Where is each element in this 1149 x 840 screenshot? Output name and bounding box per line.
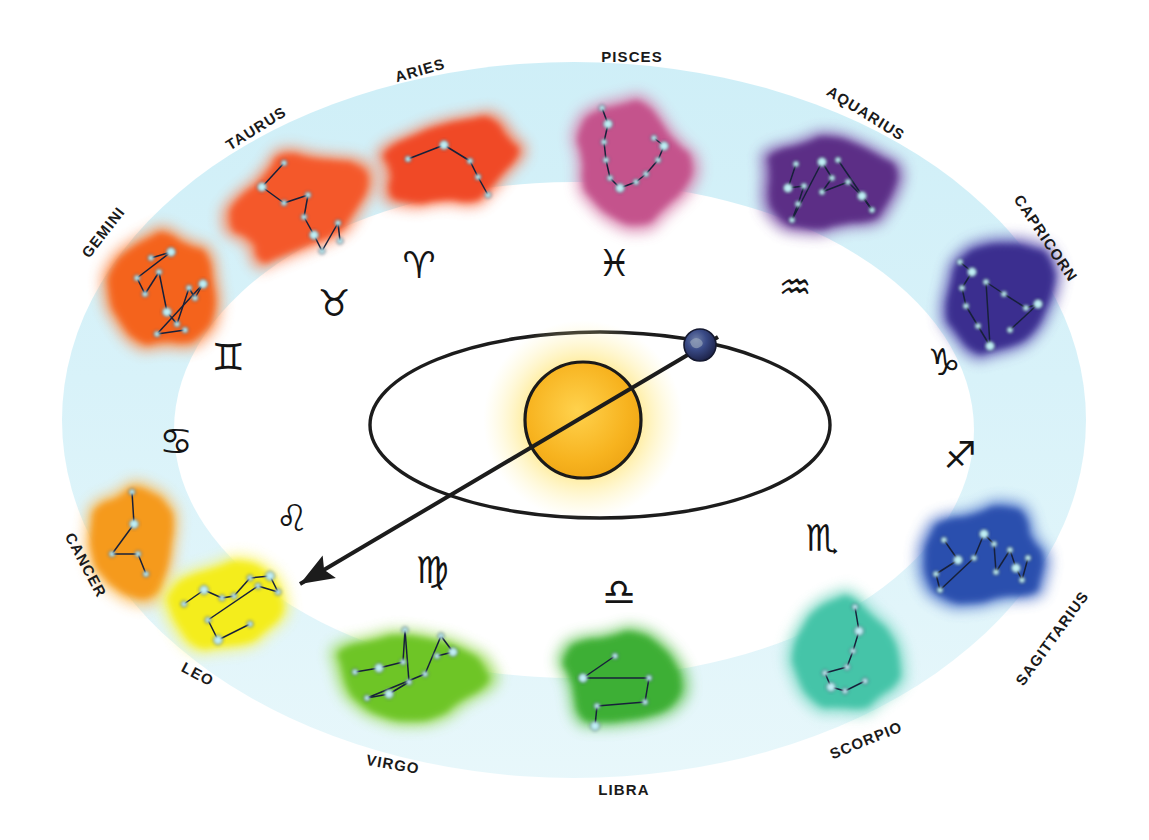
earth (684, 329, 716, 361)
star-point (400, 659, 406, 665)
star-point (991, 541, 997, 547)
star-point (213, 635, 222, 644)
star-point (819, 189, 825, 195)
star-point (434, 653, 440, 659)
star-point (1023, 305, 1029, 311)
star-point (231, 593, 237, 599)
star-point (337, 238, 343, 244)
star-point (783, 183, 792, 192)
star-point (129, 489, 135, 495)
star-point (143, 571, 149, 577)
star-point (659, 141, 668, 150)
star-point (1019, 577, 1025, 583)
star-point (578, 673, 587, 682)
star-point (993, 569, 999, 575)
star-point (154, 331, 160, 337)
star-point (406, 679, 412, 685)
star-point (789, 217, 795, 223)
star-point (651, 135, 657, 141)
star-point (985, 341, 994, 350)
star-point (869, 207, 875, 213)
star-point (182, 327, 188, 333)
star-point (603, 119, 612, 128)
sign-symbol-taurus-icon: ♉ (317, 285, 350, 322)
star-point (309, 230, 318, 239)
star-point (642, 699, 648, 705)
star-point (941, 537, 947, 543)
star-point (842, 688, 848, 694)
star-point (199, 585, 208, 594)
star-point (448, 647, 457, 656)
star-point (301, 214, 307, 220)
sign-symbol-capricorn-icon: ♑ (927, 344, 960, 381)
star-point (957, 259, 963, 265)
star-point (844, 664, 850, 670)
star-point (162, 307, 171, 316)
star-point (255, 583, 261, 589)
sun (483, 320, 683, 520)
star-point (959, 285, 965, 291)
star-point (192, 295, 198, 301)
star-point (967, 267, 976, 276)
star-point (933, 571, 939, 577)
star-point (852, 604, 858, 610)
star-point (364, 695, 370, 701)
star-point (174, 321, 180, 327)
sign-symbol-scorpio-icon: ♏ (805, 520, 838, 557)
star-point (281, 160, 287, 166)
star-point (643, 171, 649, 177)
star-point (1007, 547, 1013, 553)
sign-symbol-libra-icon: ♎ (602, 574, 635, 611)
star-point (186, 285, 192, 291)
star-point (166, 247, 175, 256)
star-point (335, 220, 341, 226)
star-point (983, 279, 989, 285)
star-point (655, 157, 661, 163)
star-point (156, 269, 162, 275)
star-point (829, 175, 835, 181)
star-point (134, 275, 140, 281)
star-point (485, 192, 491, 198)
star-point (438, 633, 444, 639)
star-point (937, 587, 943, 593)
star-point (142, 291, 148, 297)
star-point (795, 201, 801, 207)
sign-symbol-leo-icon: ♌ (275, 500, 308, 537)
star-point (826, 682, 835, 691)
sign-symbol-aquarius-icon: ♒ (778, 269, 811, 306)
star-point (793, 161, 799, 167)
star-point (319, 248, 325, 254)
star-point (607, 175, 613, 181)
star-point (603, 157, 609, 163)
star-point (181, 601, 187, 607)
star-point (1001, 291, 1007, 297)
star-point (633, 179, 639, 185)
star-point (198, 279, 207, 288)
star-point (265, 571, 274, 580)
star-point (854, 626, 863, 635)
star-point (475, 174, 481, 180)
zodiac-diagram: ARIES♈TAURUS♉GEMINI♊CANCER♋LEO♌VIRGO♍LIB… (0, 0, 1149, 840)
star-point (822, 670, 828, 676)
star-point (275, 589, 281, 595)
star-point (963, 303, 969, 309)
star-point (109, 551, 115, 557)
star-point (1033, 299, 1042, 308)
star-point (612, 653, 618, 659)
star-point (129, 519, 138, 528)
star-point (305, 192, 311, 198)
star-point (817, 157, 826, 166)
star-point (971, 555, 977, 561)
star-point (590, 721, 599, 730)
star-point (845, 179, 851, 185)
star-point (857, 191, 866, 200)
sun-body (525, 362, 641, 478)
star-point (1007, 327, 1013, 333)
star-point (205, 617, 211, 623)
star-point (374, 663, 383, 672)
sign-symbol-aries-icon: ♈ (402, 247, 435, 284)
star-point (467, 158, 473, 164)
sign-label-libra: LIBRA (598, 781, 649, 798)
sign-label-pisces: PISCES (601, 48, 663, 65)
star-point (1025, 555, 1031, 561)
